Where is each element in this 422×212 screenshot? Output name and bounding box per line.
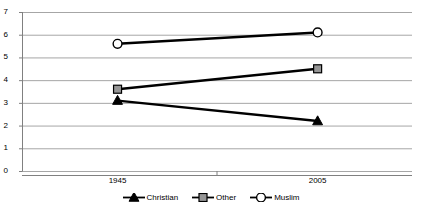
y-tick-label: 6 xyxy=(0,31,8,39)
legend-entry-other[interactable]: Other xyxy=(192,193,236,202)
y-tick-label: 7 xyxy=(0,8,8,16)
y-tick-label: 0 xyxy=(0,167,8,175)
y-tick-label: 4 xyxy=(0,76,8,84)
legend-label: Muslim xyxy=(274,193,299,202)
legend-label: Christian xyxy=(147,193,179,202)
x-axis-tick-labels: 19452005 xyxy=(22,176,412,188)
legend-label: Other xyxy=(216,193,236,202)
legend-marker-circle-icon xyxy=(250,193,272,202)
y-tick-label: 2 xyxy=(0,122,8,130)
data-point-circle xyxy=(257,193,266,202)
y-tick-label: 5 xyxy=(0,53,8,61)
chart-legend: ChristianOtherMuslim xyxy=(0,193,422,202)
legend-entry-muslim[interactable]: Muslim xyxy=(250,193,299,202)
line-chart: 01234567 19452005 ChristianOtherMuslim xyxy=(0,0,422,212)
y-tick-label: 3 xyxy=(0,99,8,107)
legend-marker-square-icon xyxy=(192,193,214,202)
x-tick-label: 2005 xyxy=(309,176,327,185)
y-axis-tick-labels: 01234567 xyxy=(0,12,422,171)
data-point-square xyxy=(199,194,207,202)
legend-marker-triangle-icon xyxy=(123,193,145,202)
x-tick-label: 1945 xyxy=(109,176,127,185)
y-tick-label: 1 xyxy=(0,144,8,152)
legend-entry-christian[interactable]: Christian xyxy=(123,193,179,202)
